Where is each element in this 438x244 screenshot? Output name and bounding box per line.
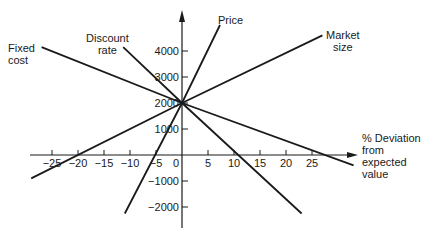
label-market-size-line2: size xyxy=(326,41,360,53)
sensitivity-chart xyxy=(0,0,438,244)
y-tick-label: −2000 xyxy=(119,201,179,213)
label-fixed-cost: Fixed cost xyxy=(8,42,35,66)
y-tick-label: 2000 xyxy=(119,97,179,109)
label-price: Price xyxy=(218,14,243,26)
origin-label: 0 xyxy=(156,157,196,169)
label-discount-rate: Discount rate xyxy=(86,32,129,56)
label-price-text: Price xyxy=(218,14,243,26)
x-axis-arrow-icon xyxy=(347,152,358,158)
x-axis-title: % Deviation from expected value xyxy=(362,132,421,180)
y-tick-label: 1000 xyxy=(119,123,179,135)
x-tick-label: 25 xyxy=(292,157,332,169)
label-market-size: Market size xyxy=(326,29,360,53)
label-market-size-line1: Market xyxy=(326,29,360,41)
y-tick-label: 3000 xyxy=(119,71,179,83)
y-tick-label: −1000 xyxy=(119,175,179,187)
series-line-fixed-cost xyxy=(42,47,354,165)
x-axis-title-line1: % Deviation xyxy=(362,132,421,144)
x-axis-title-line2: from xyxy=(362,144,421,156)
y-axis-arrow-icon xyxy=(179,10,185,22)
label-discount-rate-line1: Discount xyxy=(86,32,129,44)
series-lines xyxy=(31,25,353,214)
x-axis-title-line4: value xyxy=(362,168,421,180)
x-axis-title-line3: expected xyxy=(362,156,421,168)
label-fixed-cost-line1: Fixed xyxy=(8,42,35,54)
label-discount-rate-line2: rate xyxy=(86,44,129,56)
label-fixed-cost-line2: cost xyxy=(8,54,35,66)
